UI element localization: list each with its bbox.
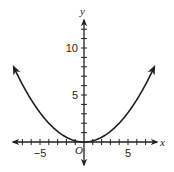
x-axis-label: x: [159, 136, 165, 148]
y-tick-label: 5: [72, 89, 78, 101]
x-tick-label: −5: [34, 147, 47, 159]
y-tick-label: 10: [66, 42, 78, 54]
x-tick-label: 5: [125, 147, 131, 159]
origin-label: O: [75, 144, 83, 156]
parabola-graph: −55510 x y O: [0, 0, 174, 172]
y-axis-label: y: [79, 5, 85, 17]
